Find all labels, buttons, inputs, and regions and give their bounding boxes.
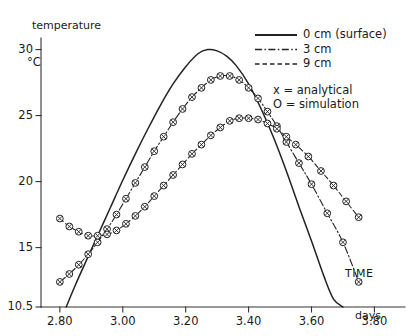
- marker-legend-entry: O = simulation: [273, 99, 359, 111]
- data-point-marker: [189, 150, 196, 157]
- data-point-marker: [207, 77, 214, 84]
- data-point-marker: [123, 195, 130, 202]
- data-point-marker: [236, 77, 243, 84]
- data-point-marker: [198, 84, 205, 91]
- data-point-marker: [264, 120, 271, 127]
- data-point-marker: [151, 148, 158, 155]
- y-tick-label: 20: [18, 176, 33, 188]
- data-point-marker: [104, 231, 111, 238]
- data-point-marker: [160, 133, 167, 140]
- data-point-marker: [308, 181, 315, 188]
- legend-entry-label: 9 cm: [303, 58, 332, 70]
- data-point-marker: [296, 160, 303, 167]
- x-tick-label: 3.20: [166, 316, 206, 328]
- y-tick-label: 30: [18, 44, 33, 56]
- marker-legend-entry: x = analytical: [273, 85, 352, 97]
- data-point-marker: [179, 161, 186, 168]
- data-point-marker: [355, 214, 362, 221]
- data-point-marker: [56, 279, 63, 286]
- data-point-marker: [94, 239, 101, 246]
- data-point-marker: [264, 108, 271, 115]
- data-point-marker: [66, 271, 73, 278]
- temperature-time-chart: temperature °C TIME days 10.515202530 2.…: [0, 0, 411, 336]
- data-point-marker: [236, 115, 243, 122]
- data-point-marker: [141, 164, 148, 171]
- data-point-marker: [170, 119, 177, 126]
- data-point-marker: [245, 84, 252, 91]
- data-point-marker: [75, 261, 82, 268]
- data-point-marker: [343, 198, 350, 205]
- data-point-marker: [94, 232, 101, 239]
- legend-entry-label: 3 cm: [303, 44, 332, 56]
- x-tick-label: 3.40: [229, 316, 269, 328]
- y-tick-label: 15: [18, 242, 33, 254]
- data-point-marker: [330, 182, 337, 189]
- y-tick-label: 25: [18, 110, 33, 122]
- data-point-marker: [207, 132, 214, 139]
- data-point-marker: [85, 232, 92, 239]
- data-point-marker: [340, 239, 347, 246]
- data-point-marker: [113, 227, 120, 234]
- legend-entry-label: 0 cm (surface): [303, 29, 387, 41]
- data-point-marker: [170, 172, 177, 179]
- data-point-marker: [217, 124, 224, 131]
- y-axis-title: temperature: [32, 20, 101, 31]
- x-tick-label: 3.80: [354, 316, 394, 328]
- data-point-marker: [151, 193, 158, 200]
- data-point-marker: [132, 180, 139, 187]
- data-point-marker: [274, 125, 281, 132]
- data-point-marker: [113, 211, 120, 218]
- x-tick-label: 3.60: [292, 316, 332, 328]
- data-point-marker: [226, 73, 233, 80]
- legend-line-samples: [255, 35, 297, 64]
- data-point-marker: [198, 141, 205, 148]
- x-tick-label: 3.00: [103, 316, 143, 328]
- data-point-marker: [226, 117, 233, 124]
- data-point-marker: [217, 73, 224, 80]
- data-point-marker: [189, 94, 196, 101]
- data-point-marker: [56, 215, 63, 222]
- data-point-marker: [179, 106, 186, 113]
- x-tick-label: 2.80: [40, 316, 80, 328]
- data-point-marker: [160, 182, 167, 189]
- data-point-marker: [292, 141, 299, 148]
- x-axis-title: TIME: [345, 268, 373, 279]
- data-point-marker: [66, 223, 73, 230]
- data-point-marker: [141, 203, 148, 210]
- data-point-marker: [132, 213, 139, 220]
- data-point-marker: [85, 251, 92, 258]
- data-point-marker: [324, 210, 331, 217]
- data-point-marker: [123, 220, 130, 227]
- data-point-marker: [255, 116, 262, 123]
- data-point-marker: [245, 115, 252, 122]
- chart-canvas: [0, 0, 411, 336]
- data-point-marker: [283, 133, 290, 140]
- data-point-marker: [305, 153, 312, 160]
- data-point-marker: [318, 168, 325, 175]
- y-tick-label: 10.5: [7, 301, 33, 313]
- y-axis-unit: °C: [27, 57, 41, 69]
- data-point-marker: [255, 95, 262, 102]
- data-point-marker: [75, 228, 82, 235]
